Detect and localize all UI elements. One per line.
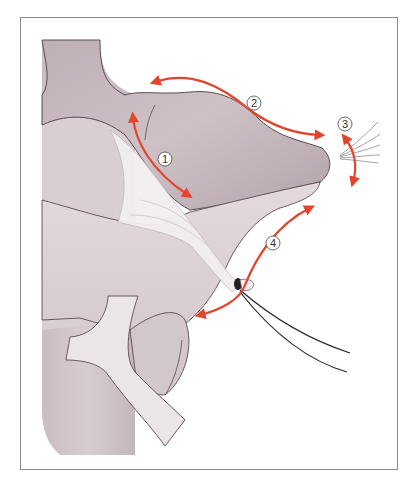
svg-text:1: 1 <box>162 153 168 165</box>
svg-text:4: 4 <box>270 237 276 249</box>
svg-text:2: 2 <box>251 97 257 109</box>
svg-text:3: 3 <box>342 118 348 130</box>
label-1: 1 <box>158 152 172 166</box>
suture <box>234 278 350 372</box>
anatomy-illustration: 1 2 3 4 <box>0 0 416 484</box>
label-3: 3 <box>338 117 352 131</box>
label-2: 2 <box>247 96 261 110</box>
label-4: 4 <box>266 236 280 250</box>
